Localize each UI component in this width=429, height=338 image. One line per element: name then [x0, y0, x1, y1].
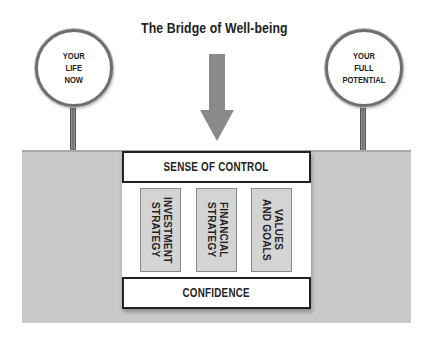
bridge: SENSE OF CONTROL INVESTMENT STRATEGY FIN… — [122, 151, 311, 309]
left-sign: YOUR LIFE NOW — [35, 29, 113, 107]
bottom-bar-label: CONFIDENCE — [183, 286, 251, 300]
pillar-label: FINANCIAL STRATEGY — [205, 202, 229, 258]
right-sign-label: YOUR FULL POTENTIAL — [342, 50, 385, 86]
right-sign-pole — [360, 104, 366, 151]
down-arrow-icon — [198, 54, 236, 142]
pillar-investment-strategy: INVESTMENT STRATEGY — [140, 188, 181, 272]
pillar-label: INVESTMENT STRATEGY — [149, 197, 173, 263]
pillar-financial-strategy: FINANCIAL STRATEGY — [196, 188, 237, 272]
confidence-bar: CONFIDENCE — [122, 277, 311, 309]
pillar-label: VALUES AND GOALS — [260, 199, 284, 261]
top-bar-label: SENSE OF CONTROL — [164, 160, 269, 174]
right-sign: YOUR FULL POTENTIAL — [325, 29, 403, 107]
pillar-values-and-goals: VALUES AND GOALS — [251, 188, 292, 272]
left-sign-label: YOUR LIFE NOW — [63, 50, 85, 86]
left-sign-pole — [70, 104, 76, 151]
sense-of-control-bar: SENSE OF CONTROL — [122, 151, 311, 183]
